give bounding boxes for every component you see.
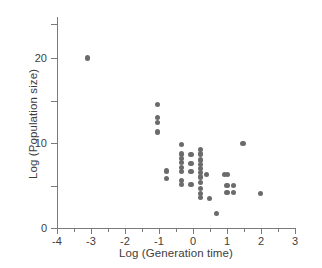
- data-point: [198, 151, 203, 156]
- data-point: [240, 141, 245, 146]
- data-point: [155, 129, 160, 134]
- data-point: [198, 195, 203, 200]
- data-point: [164, 176, 169, 181]
- data-point: [179, 142, 184, 147]
- data-point: [198, 180, 203, 185]
- data-point: [198, 174, 203, 179]
- data-point: [224, 190, 229, 195]
- data-point: [179, 169, 184, 174]
- data-point: [188, 161, 193, 166]
- data-point: [204, 172, 209, 177]
- data-point: [207, 196, 212, 201]
- data-point: [225, 172, 230, 177]
- data-point: [179, 182, 184, 187]
- data-point: [231, 183, 236, 188]
- data-point: [231, 190, 236, 195]
- data-point: [224, 183, 229, 188]
- data-point: [188, 152, 193, 157]
- data-point: [155, 120, 160, 125]
- data-point: [188, 182, 193, 187]
- data-point: [214, 211, 219, 216]
- data-point: [85, 55, 90, 60]
- data-point: [155, 102, 160, 107]
- scatter-plot-figure: Log (Population size) Log (Generation ti…: [0, 0, 322, 268]
- data-point: [258, 191, 263, 196]
- data-point: [188, 169, 193, 174]
- data-points-layer: [0, 0, 322, 268]
- data-point: [164, 168, 169, 173]
